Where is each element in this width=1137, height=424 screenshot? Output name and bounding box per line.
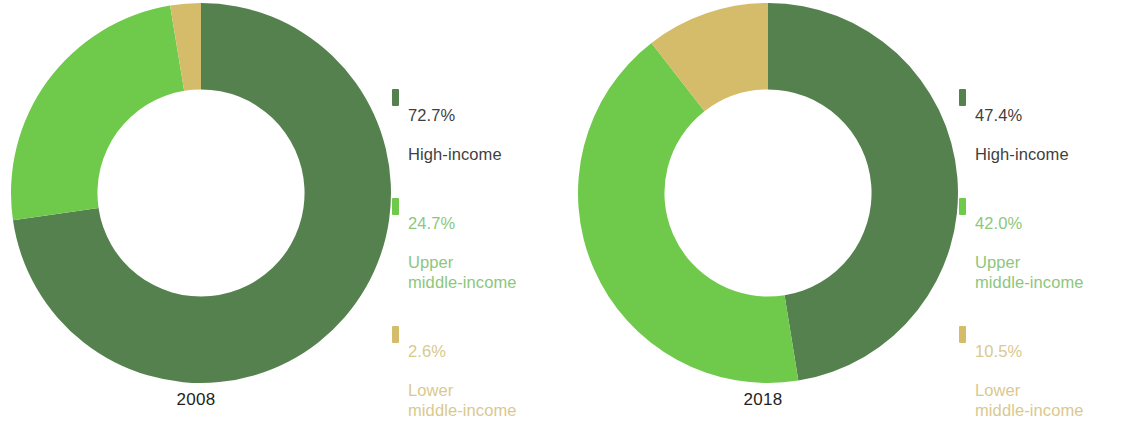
donut-svg-2008 — [10, 2, 392, 384]
legend-label-upper-middle-income: 42.0% Upper middle-income — [975, 195, 1084, 312]
year-label-2018: 2018 — [567, 390, 959, 410]
chart-panel-2008: 2008 72.7% High-income 24.7% Upper middl… — [0, 0, 567, 424]
legend-swatch-upper-middle-income — [959, 198, 966, 215]
legend-label-lower-middle-income: 10.5% Lower middle-income — [975, 323, 1084, 424]
legend-percent-lower-middle-income: 10.5% — [975, 342, 1084, 362]
legend-swatch-high-income — [959, 89, 966, 106]
legend-label-high-income: 72.7% High-income — [408, 86, 502, 184]
donut-slice — [578, 43, 798, 383]
legend-name-upper-middle-income: Upper middle-income — [975, 253, 1084, 292]
donut-chart-2008: 2008 — [0, 0, 392, 424]
donut-slice — [768, 3, 958, 381]
legend-percent-lower-middle-income: 2.6% — [408, 342, 517, 362]
year-label-2008: 2008 — [0, 390, 392, 410]
legend-name-lower-middle-income: Lower middle-income — [408, 381, 517, 420]
donut-graphic-2008 — [10, 2, 392, 384]
legend-swatch-high-income — [392, 89, 399, 106]
legend-label-high-income: 47.4% High-income — [975, 86, 1069, 184]
legend-item-high-income: 47.4% High-income — [959, 86, 1134, 184]
legend-percent-high-income: 47.4% — [975, 106, 1069, 126]
legend-item-upper-middle-income: 24.7% Upper middle-income — [392, 195, 567, 312]
donut-svg-2018 — [577, 2, 959, 384]
legend-swatch-upper-middle-income — [392, 198, 399, 215]
legend-name-upper-middle-income: Upper middle-income — [408, 253, 517, 292]
chart-panel-2018: 2018 47.4% High-income 42.0% Upper middl… — [567, 0, 1134, 424]
legend-2018: 47.4% High-income 42.0% Upper middle-inc… — [959, 0, 1134, 424]
legend-2008: 72.7% High-income 24.7% Upper middle-inc… — [392, 0, 567, 424]
legend-label-upper-middle-income: 24.7% Upper middle-income — [408, 195, 517, 312]
legend-percent-upper-middle-income: 42.0% — [975, 214, 1084, 234]
donut-chart-figure: 2008 72.7% High-income 24.7% Upper middl… — [0, 0, 1137, 424]
donut-graphic-2018 — [577, 2, 959, 384]
legend-label-lower-middle-income: 2.6% Lower middle-income — [408, 323, 517, 424]
donut-chart-2018: 2018 — [567, 0, 959, 424]
legend-swatch-lower-middle-income — [959, 326, 966, 343]
legend-item-lower-middle-income: 10.5% Lower middle-income — [959, 323, 1134, 424]
legend-name-high-income: High-income — [408, 145, 502, 165]
legend-item-high-income: 72.7% High-income — [392, 86, 567, 184]
legend-item-upper-middle-income: 42.0% Upper middle-income — [959, 195, 1134, 312]
legend-item-lower-middle-income: 2.6% Lower middle-income — [392, 323, 567, 424]
legend-name-lower-middle-income: Lower middle-income — [975, 381, 1084, 420]
legend-percent-upper-middle-income: 24.7% — [408, 214, 517, 234]
donut-slices-2008 — [11, 3, 391, 383]
legend-name-high-income: High-income — [975, 145, 1069, 165]
legend-percent-high-income: 72.7% — [408, 106, 502, 126]
donut-slice — [11, 6, 184, 221]
legend-swatch-lower-middle-income — [392, 326, 399, 343]
donut-slices-2018 — [578, 3, 958, 383]
